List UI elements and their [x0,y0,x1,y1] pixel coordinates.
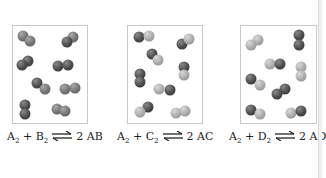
atom [180,106,191,117]
reactant-2: B [36,130,44,143]
atom [135,77,146,88]
atom [272,89,283,100]
equation-ab: A2 + B22 AB [7,130,103,148]
equation-ac: A2 + C22 AC [117,130,213,148]
subscript: 2 [44,137,48,145]
reactant-1: A [229,130,237,143]
atom [70,83,81,94]
atom [63,60,74,71]
coefficient: 2 [299,130,306,143]
subscript: 2 [154,137,158,145]
atom [294,40,305,51]
coefficient: 2 [187,130,194,143]
atom [184,34,195,45]
plus-sign: + [133,130,142,143]
coefficient: 2 [76,130,83,143]
atom [60,106,71,117]
subscript: 2 [237,137,241,145]
atom [275,59,286,70]
atom [179,70,190,81]
reactant-1: A [7,130,15,143]
equation-ad: A2 + D22 AD [229,130,326,148]
equilibrium-arrow-icon [51,131,73,141]
atom [153,55,164,66]
product: AC [197,130,213,143]
atom [165,85,176,96]
atom [25,36,36,47]
atom [296,71,307,82]
atom [144,31,155,42]
atom [62,37,73,48]
reactant-1: A [117,130,125,143]
atom [246,40,257,51]
atom [255,80,266,91]
atom [20,109,31,120]
subscript: 2 [266,137,270,145]
equilibrium-arrow-icon [274,131,296,141]
equilibrium-arrow-icon [162,131,184,141]
atom [255,109,266,120]
atom [17,60,28,71]
atom [154,84,165,95]
plus-sign: + [245,130,254,143]
atom [135,107,146,118]
subscript: 2 [15,137,19,145]
reactant-2: C [146,130,154,143]
plus-sign: + [23,130,32,143]
atom [40,84,51,95]
subscript: 2 [125,137,129,145]
page-edge [318,0,322,178]
atom [296,106,307,117]
product: AB [87,130,103,143]
